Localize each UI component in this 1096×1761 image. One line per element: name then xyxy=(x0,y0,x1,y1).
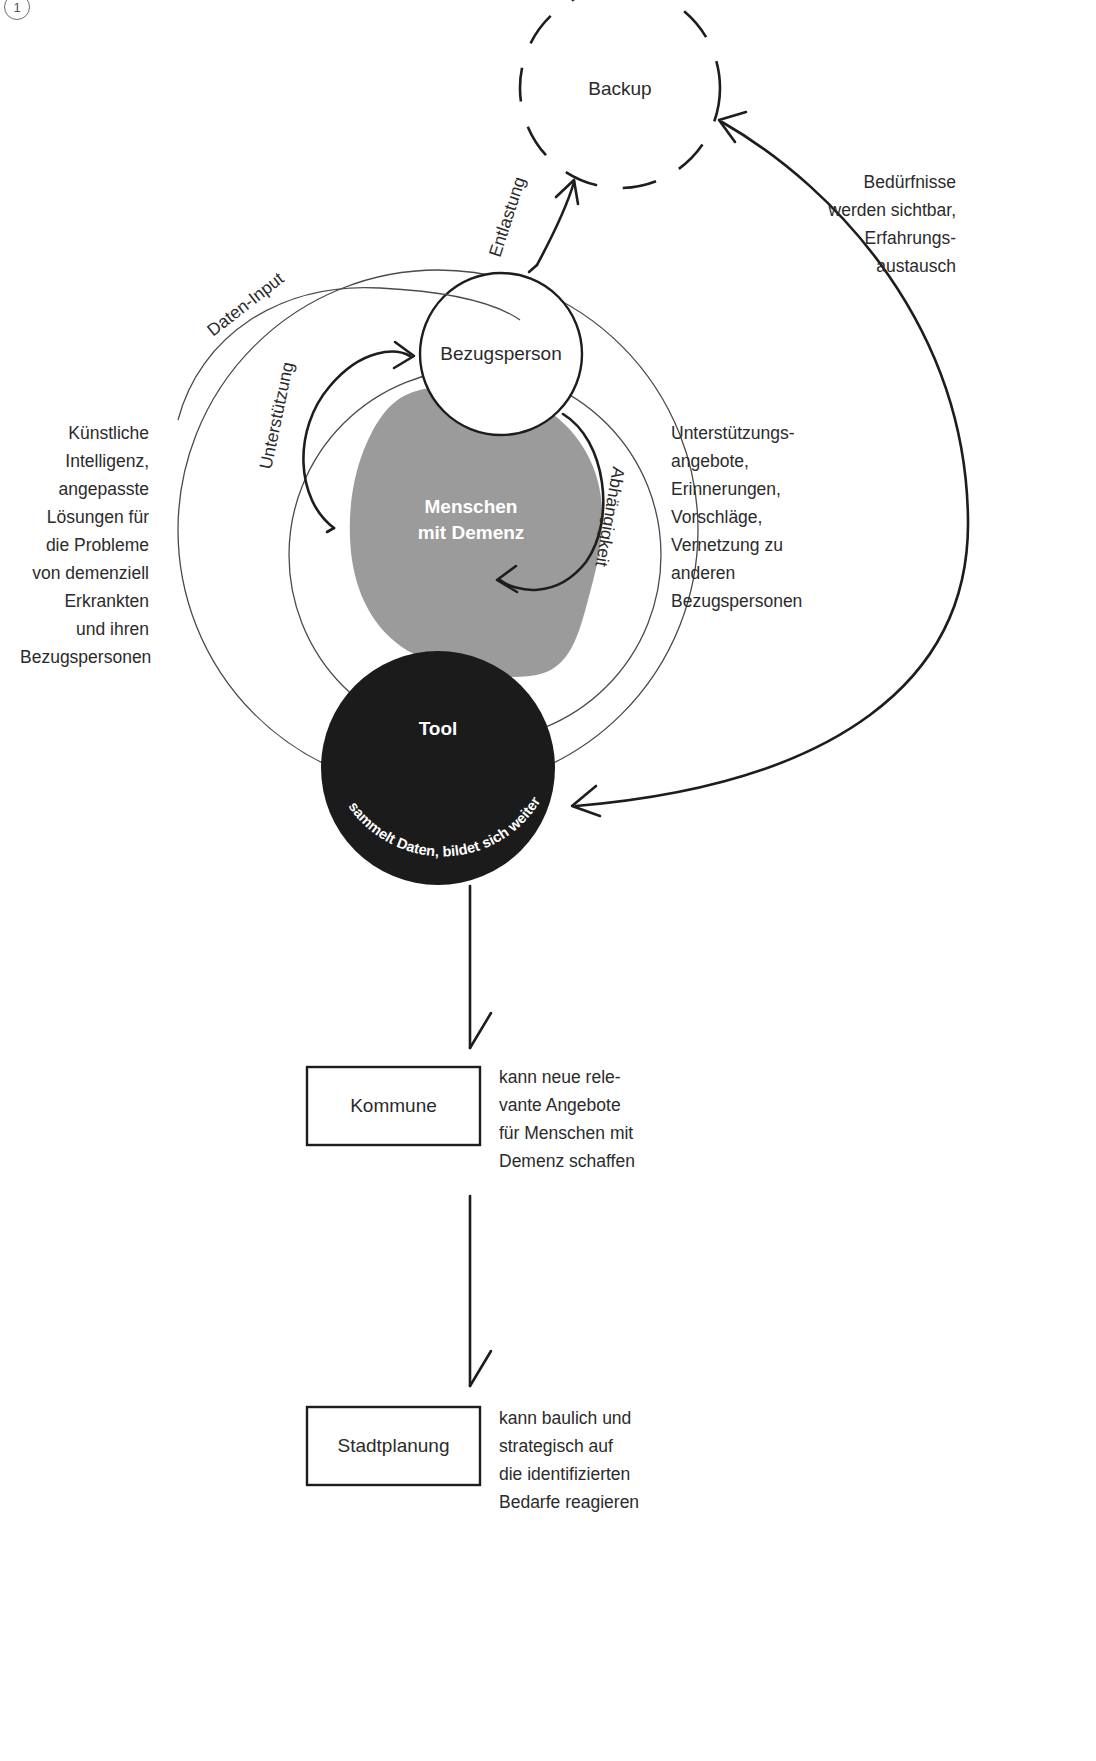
arrow-kommune-to-stadtplanung-head xyxy=(470,1351,491,1386)
annotation-right-support-block: Unterstützungs- angebote, Erinnerungen, … xyxy=(671,419,871,615)
menschen-mit-demenz-label: Menschen mit Demenz xyxy=(371,494,571,546)
arrow-tool-to-kommune-head xyxy=(470,1013,491,1048)
entlastung-arrow-tail xyxy=(529,265,537,272)
backup-label: Backup xyxy=(520,78,720,100)
tool-label: Tool xyxy=(378,718,498,740)
entlastung-label: Entlastung xyxy=(485,174,530,259)
stadtplanung-label: Stadtplanung xyxy=(307,1435,480,1457)
entlastung-arrow xyxy=(537,182,574,265)
annotation-kommune-note: kann neue rele- vante Angebote für Mensc… xyxy=(499,1063,699,1175)
daten-input-label: Daten-Input xyxy=(203,268,287,340)
bezugsperson-label: Bezugsperson xyxy=(401,343,601,365)
diagram-canvas: 1 xyxy=(0,0,1096,1761)
annotation-right-needs-block: Bedürfnisse werden sichtbar, Erfahrungs-… xyxy=(790,168,956,280)
kommune-label: Kommune xyxy=(307,1095,480,1117)
unterstuetzung-arrow-tail xyxy=(327,528,334,532)
unterstuetzung-label: Unterstützung xyxy=(255,360,297,471)
menschen-mit-demenz-line1: Menschen xyxy=(371,494,571,520)
menschen-mit-demenz-line2: mit Demenz xyxy=(371,520,571,546)
feedback-arc-arrowhead-bottom xyxy=(572,786,600,816)
annotation-stadtplanung-note: kann baulich und strategisch auf die ide… xyxy=(499,1404,709,1516)
annotation-left-ai-block: Künstliche Intelligenz, angepasste Lösun… xyxy=(20,419,149,671)
